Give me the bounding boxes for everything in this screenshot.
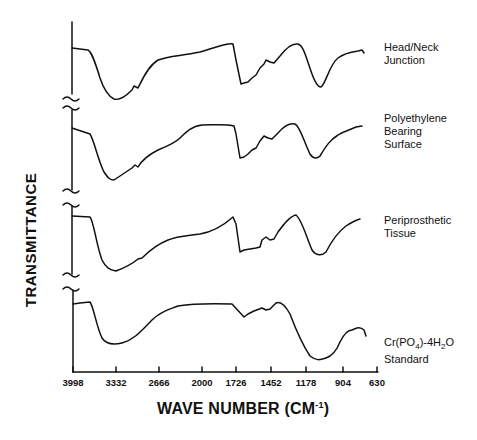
axis-break-icon — [63, 106, 79, 110]
series-label-polyethylene: Polyethylene Bearing Surface — [384, 112, 447, 151]
axis-break-icon — [63, 273, 79, 277]
series-head-neck-junction — [72, 44, 364, 100]
y-axis-label: TRANSMITTANCE — [22, 173, 39, 308]
x-tick-label: 2000 — [191, 377, 212, 388]
series-crpo4-4h2o-standard — [73, 302, 366, 360]
axis-break-icon — [63, 287, 79, 291]
x-tick-label: 1726 — [225, 377, 246, 388]
x-tick-label: 904 — [335, 377, 351, 388]
x-tick-label: 3998 — [62, 377, 83, 388]
series-label-periprosthetic: Periprosthetic Tissue — [384, 214, 451, 240]
x-tick-label: 2666 — [148, 377, 169, 388]
x-tick-label: 1452 — [260, 377, 281, 388]
series-periprosthetic-tissue — [72, 215, 360, 271]
x-tick-label: 1178 — [296, 377, 317, 388]
x-axis-label: WAVE NUMBER (CM-1) — [157, 400, 329, 418]
x-tick-label: 630 — [369, 377, 385, 388]
series-label-crpo4-standard: Cr(PO4)-4H2O Standard — [384, 336, 454, 366]
axis-break-icon — [63, 189, 79, 193]
axis-break-icon — [63, 203, 79, 207]
axis-break-icon — [63, 97, 79, 101]
series-polyethylene-bearing-surface — [72, 124, 362, 180]
series-label-head-neck: Head/Neck Junction — [384, 41, 438, 67]
x-tick-label: 3332 — [105, 377, 126, 388]
